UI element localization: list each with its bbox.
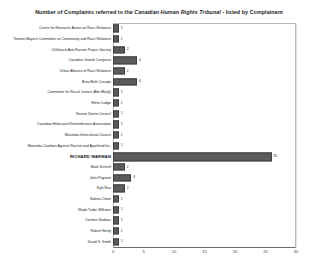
category-label: Robert Neely bbox=[91, 228, 111, 233]
bar-container: 1 bbox=[113, 25, 119, 32]
bar-row: Canadian Jewish Congress4 bbox=[0, 55, 318, 66]
category-label: Toronto Zionist Council bbox=[75, 111, 111, 116]
bar-row: Helen Lodge1 bbox=[0, 98, 318, 109]
bar-container: 1 bbox=[113, 142, 119, 149]
bar-row: Chilliwack Anti-Racism Project Society2 bbox=[0, 44, 318, 55]
bar-row: Wade Tudor Williams1 bbox=[0, 204, 318, 215]
bar bbox=[113, 163, 125, 170]
bar-row: John Payzant3 bbox=[0, 172, 318, 183]
bar-rows: Centre for Research-Action on Race Relat… bbox=[0, 23, 318, 247]
bar-row: Sabina Citron1 bbox=[0, 194, 318, 205]
bar-value-label: 26 bbox=[272, 154, 277, 158]
bar-container: 1 bbox=[113, 99, 119, 106]
bar bbox=[113, 78, 137, 85]
bar-row: Committee for Racial Justice (Abir Bhalj… bbox=[0, 87, 318, 98]
bar-value-label: 4 bbox=[137, 80, 140, 84]
bar-container: 4 bbox=[113, 57, 137, 64]
category-label: Manitoba Coalition Against Racism and Ap… bbox=[28, 143, 111, 148]
category-label: Mark Schnell bbox=[91, 164, 111, 169]
bar-container: 4 bbox=[113, 78, 137, 85]
category-label: Chilliwack Anti-Racism Project Society bbox=[51, 47, 111, 52]
bar-row: Kyle Rau2 bbox=[0, 183, 318, 194]
bar-row: Centre for Research-Action on Race Relat… bbox=[0, 23, 318, 34]
bar-row: Mark Schnell2 bbox=[0, 162, 318, 173]
bar-value-label: 1 bbox=[119, 122, 122, 126]
bar-value-label: 4 bbox=[137, 58, 140, 62]
bar-value-label: 1 bbox=[119, 26, 122, 30]
bar-container: 1 bbox=[113, 121, 119, 128]
category-label: Centre for Research-Action on Race Relat… bbox=[39, 26, 111, 31]
bar-container: 1 bbox=[113, 131, 119, 138]
bar-row: Toronto Mayor's Committee on Community a… bbox=[0, 34, 318, 45]
category-label: Helen Lodge bbox=[91, 100, 111, 105]
bar-value-label: 1 bbox=[119, 37, 122, 41]
bar-row: Robert Neely1 bbox=[0, 226, 318, 237]
bar-chart: Number of Complaints referred to the Can… bbox=[0, 0, 318, 272]
chart-title-emphasis: Canadian Human Rights Tribunal bbox=[134, 9, 220, 15]
bar-value-label: 1 bbox=[119, 90, 122, 94]
x-tick-label: 30 bbox=[294, 249, 298, 254]
bar-value-label: 1 bbox=[119, 197, 122, 201]
category-label: Kyle Rau bbox=[97, 186, 111, 191]
x-tick-label: 5 bbox=[142, 249, 144, 254]
bar-container: 2 bbox=[113, 185, 125, 192]
bar-value-label: 1 bbox=[119, 240, 122, 244]
bar-value-label: 2 bbox=[125, 69, 128, 73]
bar-container: 1 bbox=[113, 110, 119, 117]
x-tick-label: 20 bbox=[233, 249, 237, 254]
bar-container: 1 bbox=[113, 206, 119, 213]
chart-title: Number of Complaints referred to the Can… bbox=[0, 9, 318, 16]
bar-container: 1 bbox=[113, 217, 119, 224]
category-label: Carmen Nadeau bbox=[85, 218, 111, 223]
bar-value-label: 1 bbox=[119, 133, 122, 137]
bar-row: Manitoba Coalition Against Racism and Ap… bbox=[0, 140, 318, 151]
bar bbox=[113, 67, 125, 74]
bar-value-label: 3 bbox=[131, 176, 134, 180]
category-label: B'nai Brith Canada bbox=[82, 79, 111, 84]
bar-value-label: 2 bbox=[125, 165, 128, 169]
bar-container: 1 bbox=[113, 89, 119, 96]
bar-row: Toronto Zionist Council1 bbox=[0, 108, 318, 119]
bar-value-label: 1 bbox=[119, 229, 122, 233]
bar-row: Canadian Holocaust Remembrance Associati… bbox=[0, 119, 318, 130]
category-label: Committee for Racial Justice (Abir Bhalj… bbox=[47, 90, 111, 95]
chart-title-prefix: Number of Complaints referred to the bbox=[35, 9, 134, 15]
x-tick-label: 25 bbox=[263, 249, 267, 254]
bar-container: 2 bbox=[113, 67, 125, 74]
category-label: David S. Smith bbox=[88, 239, 111, 244]
bar-container: 1 bbox=[113, 238, 119, 245]
category-label: Sabina Citron bbox=[90, 196, 111, 201]
bar bbox=[113, 46, 125, 53]
bar-row: Urban Alliance of Race Relations2 bbox=[0, 66, 318, 77]
bar-container: 2 bbox=[113, 163, 125, 170]
bar-container: 1 bbox=[113, 35, 119, 42]
category-label: RICHARD WARMAN bbox=[70, 154, 111, 159]
bar-row: RICHARD WARMAN26 bbox=[0, 151, 318, 162]
chart-title-suffix: - listed by Complainant bbox=[221, 9, 283, 15]
bar bbox=[113, 57, 137, 64]
bar-container: 3 bbox=[113, 174, 131, 181]
bar bbox=[113, 185, 125, 192]
category-label: Canadian Jewish Congress bbox=[68, 58, 111, 63]
category-label: Canadian Holocaust Remembrance Associati… bbox=[37, 122, 111, 127]
bar-value-label: 1 bbox=[119, 144, 122, 148]
category-label: Toronto Mayor's Committee on Community a… bbox=[13, 36, 111, 41]
category-label: John Payzant bbox=[90, 175, 111, 180]
bar-value-label: 1 bbox=[119, 101, 122, 105]
bar bbox=[113, 153, 272, 162]
bar-row: David S. Smith1 bbox=[0, 236, 318, 247]
bar-container: 2 bbox=[113, 46, 125, 53]
x-axis: 051015202530 bbox=[113, 249, 296, 259]
bar bbox=[113, 174, 131, 181]
x-tick-label: 0 bbox=[112, 249, 114, 254]
x-tick-label: 15 bbox=[202, 249, 206, 254]
category-label: Urban Alliance of Race Relations bbox=[60, 68, 111, 73]
bar-row: B'nai Brith Canada4 bbox=[0, 76, 318, 87]
bar-container: 1 bbox=[113, 195, 119, 202]
bar-value-label: 2 bbox=[125, 48, 128, 52]
bar-value-label: 1 bbox=[119, 112, 122, 116]
x-tick-label: 10 bbox=[172, 249, 176, 254]
category-label: Wade Tudor Williams bbox=[78, 207, 111, 212]
category-label: Manitoba Intercultural Council bbox=[65, 132, 111, 137]
bar-container: 26 bbox=[113, 153, 272, 160]
